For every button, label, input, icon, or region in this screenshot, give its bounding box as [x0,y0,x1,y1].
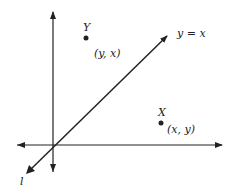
line-label: y = x [177,28,206,39]
point-X-coords: (x, y) [167,124,195,135]
diagonal-line-name: l [20,176,24,187]
x-axis-left-arrow-icon [17,142,25,148]
point-Y [84,36,89,41]
point-Y-label: Y [83,22,90,33]
point-Y-coords: (y, x) [94,48,121,59]
point-X-label: X [158,107,166,118]
point-X [159,121,164,126]
reflection-diagram: Y (y, x) y = x X (x, y) l [0,0,234,195]
y-axis-down-arrow-icon [50,164,56,172]
